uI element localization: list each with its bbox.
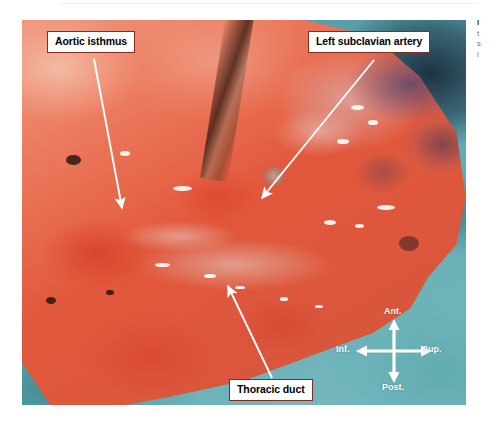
tissue-highlight xyxy=(337,139,349,143)
orientation-compass: Ant. Post. Inf. Sup. xyxy=(336,305,452,397)
label-thoracic-duct[interactable]: Thoracic duct xyxy=(229,379,313,401)
page-top-rule xyxy=(60,3,478,4)
tissue-highlight xyxy=(351,105,364,110)
caption-line: I xyxy=(477,18,495,29)
label-aortic-isthmus[interactable]: Aortic isthmus xyxy=(47,31,135,53)
caption-margin-text: I t s i xyxy=(477,18,495,60)
tissue-highlight xyxy=(324,220,336,225)
tissue-highlight xyxy=(368,120,378,125)
tissue-highlight xyxy=(280,297,289,300)
figure-page: Aortic isthmus Left subclavian artery Th… xyxy=(0,0,495,426)
forceps-tip xyxy=(262,166,286,185)
caption-line: i xyxy=(477,50,495,61)
compass-label-posterior: Post. xyxy=(382,383,404,392)
tissue-highlight xyxy=(355,224,364,228)
tissue-highlight xyxy=(120,151,131,156)
compass-label-inferior: Inf. xyxy=(336,345,350,354)
caption-line: t xyxy=(477,29,495,40)
caption-line: s xyxy=(477,39,495,50)
tissue-speck xyxy=(66,155,80,165)
compass-label-superior: Sup. xyxy=(422,345,442,354)
tissue-highlight xyxy=(377,205,395,210)
compass-label-anterior: Ant. xyxy=(384,307,402,316)
label-left-subclavian-artery[interactable]: Left subclavian artery xyxy=(308,31,430,53)
tissue-highlight xyxy=(173,186,192,191)
